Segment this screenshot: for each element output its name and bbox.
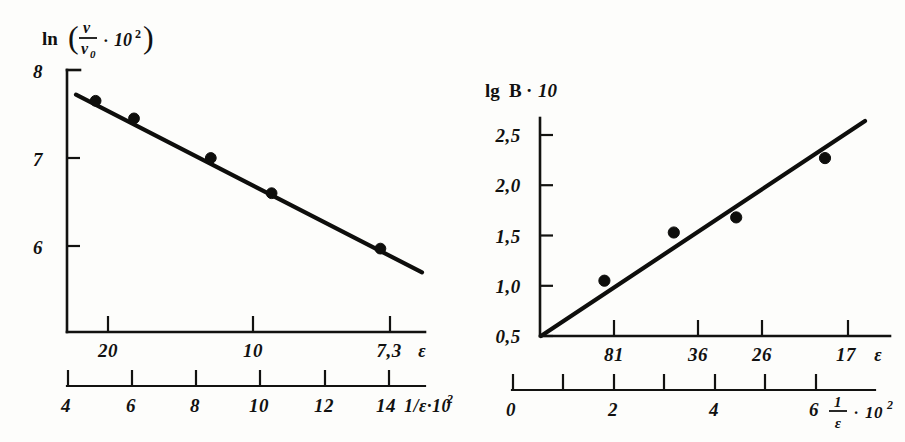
x-ticklabel-26-right: 26: [751, 344, 772, 365]
chart-left-canvas: ln ( v v 0 · 10 2 ) 8 7 6: [0, 0, 455, 442]
y-ticklabel-25-right: 2,5: [494, 125, 520, 146]
y-ticklabel-15-right: 1,5: [495, 226, 520, 247]
datapoint-left-2: [129, 113, 140, 124]
ylabel-symbol-right: B: [509, 80, 522, 101]
x2-ticklabel-2-right: 2: [607, 399, 618, 420]
x-axis-title-epsilon-right: ε: [874, 345, 882, 365]
x2-title-numerator-right: 1: [834, 394, 842, 410]
x2-title-dot-right: ·: [854, 404, 859, 421]
x-ticklabel-81-right: 81: [604, 344, 624, 365]
datapoint-left-1: [90, 95, 101, 106]
ylabel-denominator: v: [81, 40, 89, 57]
x-axis-title-epsilon-left: ε: [418, 341, 426, 361]
chart-right-canvas: lg B · 10 2,5 2,0 1,5 1,0 0,5: [450, 0, 905, 442]
x2-title-denominator-right: ε: [835, 415, 842, 431]
x2-ticklabel-12-left: 12: [314, 395, 334, 416]
x2-ticklabel-14-left: 14: [376, 395, 396, 416]
trendline-right: [541, 121, 865, 336]
x2-axis-title-right: 1 ε · 10 2: [829, 394, 893, 431]
ylabel-denominator-sub: 0: [90, 48, 96, 60]
y-ticklabel-05-right: 0,5: [495, 326, 520, 347]
ylabel-mantissa: 10: [114, 30, 132, 50]
y-axis-label-right: lg B · 10: [485, 80, 558, 101]
x2-ticklabel-8-left: 8: [190, 395, 200, 416]
x-ticklabel-10-left: 10: [243, 340, 263, 361]
x2-ticklabel-0-right: 0: [506, 399, 516, 420]
ylabel-exponent: 2: [135, 27, 141, 41]
ylabel-mantissa-right: 10: [538, 80, 558, 101]
ylabel-close-paren: ): [143, 19, 154, 55]
x2-axis-title-text-left: 1/ε·10: [404, 396, 451, 416]
chart-left: ln ( v v 0 · 10 2 ) 8 7 6: [0, 0, 455, 442]
datapoint-right-1: [599, 275, 610, 286]
trendline-left: [76, 95, 422, 273]
ylabel-fn-right: lg: [485, 80, 500, 101]
x2-ticklabel-6-left: 6: [126, 395, 136, 416]
datapoint-left-4: [266, 188, 277, 199]
ylabel-dot: ·: [103, 31, 109, 50]
datapoint-right-2: [668, 227, 679, 238]
x-ticklabel-36-right: 36: [687, 344, 708, 365]
ylabel-open-paren: (: [68, 19, 79, 55]
x2-ticklabel-4-right: 4: [708, 399, 719, 420]
figure-page: ln ( v v 0 · 10 2 ) 8 7 6: [0, 0, 905, 442]
x2-ticklabel-10-left: 10: [249, 395, 269, 416]
x-ticklabel-73-left: 7,3: [376, 340, 401, 361]
x-ticklabel-20-left: 20: [97, 340, 118, 361]
y-axis-label-left: ln ( v v 0 · 10 2 ): [42, 19, 154, 60]
ylabel-numerator: v: [83, 19, 91, 36]
y-ticklabel-10-right: 1,0: [495, 276, 520, 297]
datapoint-right-4: [819, 153, 830, 164]
chart-right: lg B · 10 2,5 2,0 1,5 1,0 0,5: [450, 0, 905, 442]
datapoint-left-3: [205, 153, 216, 164]
y-ticklabel-6-left: 6: [33, 237, 43, 258]
datapoint-left-5: [375, 243, 386, 254]
y-ticklabel-8-left: 8: [33, 61, 43, 82]
x2-ticklabel-4-left: 4: [60, 395, 71, 416]
x-ticklabel-17-right: 17: [836, 344, 857, 365]
ylabel-dot-right: ·: [526, 80, 532, 101]
x2-axis-title-left: 1/ε·10 2: [404, 392, 453, 416]
ylabel-fn: ln: [42, 28, 58, 49]
y-ticklabel-20-right: 2,0: [494, 175, 520, 196]
y-ticklabel-7-left: 7: [33, 149, 44, 170]
x2-ticklabel-6-right: 6: [809, 399, 819, 420]
datapoint-right-3: [731, 212, 742, 223]
x2-title-mantissa-right: 10: [865, 403, 883, 422]
x2-title-exponent-right: 2: [886, 398, 893, 412]
